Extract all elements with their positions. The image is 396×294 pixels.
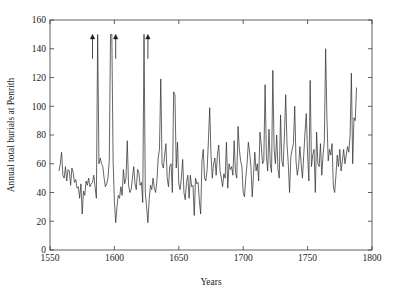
y-tick-label-160: 160 bbox=[32, 15, 47, 25]
x-tick-label-1750: 1750 bbox=[298, 253, 317, 263]
x-tick-label-1800: 1800 bbox=[363, 253, 382, 263]
chart-canvas: 155016001650170017501800 020406080100120… bbox=[0, 0, 396, 294]
x-tick-label-1650: 1650 bbox=[169, 253, 188, 263]
y-tick-label-80: 80 bbox=[37, 130, 47, 140]
y-tick-label-60: 60 bbox=[37, 159, 47, 169]
y-tick-label-100: 100 bbox=[32, 102, 47, 112]
y-tick-label-40: 40 bbox=[37, 188, 47, 198]
x-tick-label-1700: 1700 bbox=[234, 253, 253, 263]
y-axis-title: Annual total burials at Penrith bbox=[6, 78, 16, 193]
x-tick-label-1600: 1600 bbox=[105, 253, 124, 263]
y-tick-label-140: 140 bbox=[32, 44, 47, 54]
y-tick-label-20: 20 bbox=[37, 217, 47, 227]
x-axis-title: Years bbox=[200, 277, 222, 287]
chart-figure: 155016001650170017501800 020406080100120… bbox=[0, 0, 396, 294]
y-tick-label-120: 120 bbox=[32, 73, 47, 83]
y-tick-label-0: 0 bbox=[41, 245, 46, 255]
